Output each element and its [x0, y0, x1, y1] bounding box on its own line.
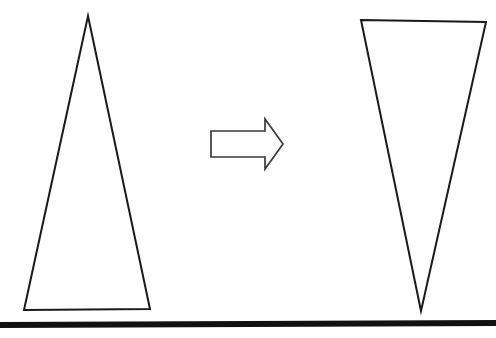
physics-diagram — [0, 0, 496, 338]
diagram-canvas: Upright triangle Flip / invert Inverted … — [0, 0, 496, 338]
canvas-background — [0, 0, 496, 338]
